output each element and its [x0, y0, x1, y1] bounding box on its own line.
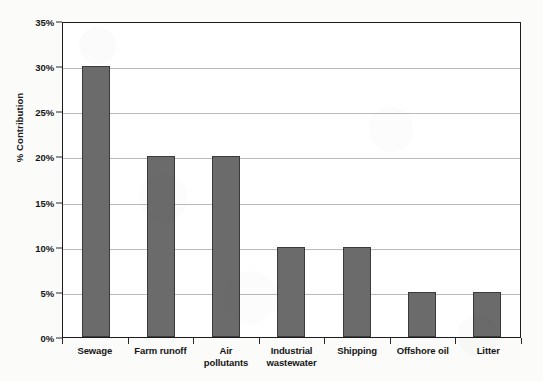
- bar: [147, 156, 175, 337]
- x-axis-label: Airpollutants: [193, 345, 259, 368]
- x-tick-mark: [390, 338, 391, 344]
- x-axis-label-line: Shipping: [324, 345, 390, 357]
- y-tick-label: 25%: [0, 107, 54, 118]
- x-axis-label-line: Air: [193, 345, 259, 357]
- x-axis-label: Industrialwastewater: [259, 345, 325, 368]
- x-axis-label: Sewage: [62, 345, 128, 368]
- x-axis-label-line: Farm runoff: [128, 345, 194, 357]
- bar: [277, 247, 305, 337]
- bar: [408, 292, 436, 337]
- x-axis-label: Farm runoff: [128, 345, 194, 368]
- x-axis-tick-marks: [62, 338, 521, 345]
- bar-slot: [455, 23, 520, 337]
- y-tick-label: 15%: [0, 197, 54, 208]
- y-tick-label: 30%: [0, 62, 54, 73]
- y-tick-label: 20%: [0, 152, 54, 163]
- bar-slot: [324, 23, 389, 337]
- x-tick-mark: [62, 338, 63, 344]
- x-axis-label-line: Offshore oil: [390, 345, 456, 357]
- x-axis-label-line: Industrial: [259, 345, 325, 357]
- x-tick-mark: [128, 338, 129, 344]
- x-axis-label: Litter: [455, 345, 521, 368]
- x-axis-label: Shipping: [324, 345, 390, 368]
- bar: [212, 156, 240, 337]
- y-axis-tick-labels: 35%30%25%20%15%10%5%0%: [0, 22, 54, 338]
- bar-slot: [128, 23, 193, 337]
- x-axis-label-line: wastewater: [259, 357, 325, 369]
- y-tick-label: 0%: [0, 333, 54, 344]
- x-tick-mark: [455, 338, 456, 344]
- bars-container: [63, 23, 520, 337]
- x-axis-label: Offshore oil: [390, 345, 456, 368]
- bar-slot: [194, 23, 259, 337]
- x-axis-label-line: pollutants: [193, 357, 259, 369]
- y-tick-label: 5%: [0, 287, 54, 298]
- x-tick-mark: [193, 338, 194, 344]
- y-tick-label: 10%: [0, 242, 54, 253]
- x-axis-label-line: Sewage: [62, 345, 128, 357]
- bar-slot: [259, 23, 324, 337]
- bar-slot: [63, 23, 128, 337]
- x-tick-mark: [521, 338, 522, 344]
- x-tick-mark: [324, 338, 325, 344]
- y-tick-label: 35%: [0, 17, 54, 28]
- plot-area: [62, 22, 521, 338]
- x-axis-label-line: Litter: [455, 345, 521, 357]
- bar-slot: [389, 23, 454, 337]
- x-axis-category-labels: SewageFarm runoffAirpollutantsIndustrial…: [62, 345, 521, 368]
- bar: [343, 247, 371, 337]
- bar: [473, 292, 501, 337]
- bar: [82, 66, 110, 337]
- x-tick-mark: [259, 338, 260, 344]
- bar-chart-figure: % Contribution 35%30%25%20%15%10%5%0% Se…: [0, 0, 543, 381]
